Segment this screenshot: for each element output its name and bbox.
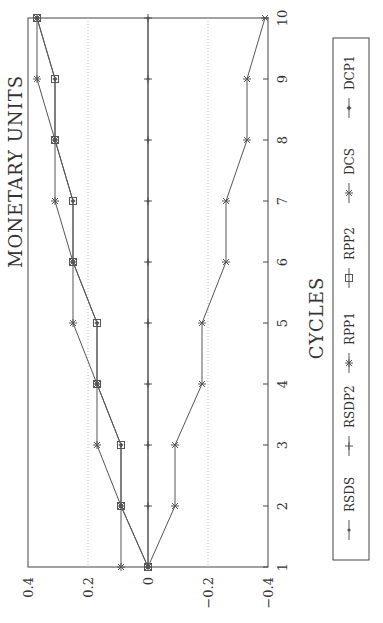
series-dcs	[144, 15, 269, 570]
y-tick-label: 0.4	[21, 577, 36, 598]
legend-label: RSDP2	[343, 385, 357, 428]
legend-label: RPP1	[343, 312, 357, 345]
y-tick-label: 0	[141, 577, 156, 585]
y-axis-title: MONETARY UNITS	[5, 75, 26, 268]
asterisk-marker-icon	[117, 563, 125, 571]
series-rpp1	[33, 14, 125, 571]
plus-marker-icon	[144, 197, 152, 205]
line-chart: 0.40.20−0.2−0.412345678910 MONETARY UNIT…	[0, 0, 383, 623]
series-line	[37, 18, 148, 567]
legend-label: RPP2	[343, 227, 357, 260]
series-line	[37, 18, 121, 567]
series-dcp1	[35, 16, 151, 570]
plus-marker-icon	[144, 14, 152, 22]
dot-marker-icon	[347, 528, 350, 531]
asterisk-marker-icon	[345, 359, 353, 367]
x-axis-title: CYCLES	[306, 277, 327, 360]
x-tick-label: 10	[275, 10, 290, 27]
diamond-marker-icon	[53, 77, 58, 82]
series-line	[37, 18, 148, 567]
legend-label: RSDS	[343, 477, 357, 512]
x-tick-label: 6	[275, 258, 290, 266]
plus-marker-icon	[144, 380, 152, 388]
plus-marker-icon	[144, 319, 152, 327]
asterisk-marker-icon	[33, 75, 41, 83]
y-tick-label: 0.2	[81, 577, 96, 598]
series-rsdp2	[144, 14, 152, 571]
legend-label: DCS	[343, 148, 357, 175]
x-tick-label: 8	[275, 136, 290, 144]
plus-marker-icon	[144, 136, 152, 144]
plus-marker-icon	[144, 75, 152, 83]
x-tick-label: 1	[275, 563, 290, 571]
series-layer	[33, 14, 269, 571]
y-tick-label: −0.4	[261, 577, 276, 609]
y-tick-label: −0.2	[201, 577, 216, 609]
diamond-marker-icon	[119, 443, 124, 448]
x-tick-label: 4	[275, 380, 290, 388]
x-tick-label: 5	[275, 319, 290, 327]
diamond-marker-icon	[95, 321, 100, 326]
legend: RSDSRSDP2RPP1RPP2DCSDCP1	[333, 38, 369, 560]
plus-marker-icon	[144, 441, 152, 449]
x-tick-label: 7	[275, 197, 290, 205]
asterisk-marker-icon	[93, 441, 101, 449]
plus-marker-icon	[144, 258, 152, 266]
series-line	[148, 18, 265, 567]
x-tick-label: 9	[275, 75, 290, 83]
plus-marker-icon	[144, 502, 152, 510]
diamond-marker-icon	[71, 199, 76, 204]
axes: 0.40.20−0.2−0.412345678910	[21, 10, 290, 609]
series-rpp2	[34, 15, 152, 571]
asterisk-marker-icon	[51, 197, 59, 205]
x-tick-label: 2	[275, 502, 290, 510]
legend-label: DCP1	[343, 55, 357, 90]
x-tick-label: 3	[275, 441, 290, 449]
x-marker-icon	[261, 15, 269, 21]
asterisk-marker-icon	[69, 319, 77, 327]
